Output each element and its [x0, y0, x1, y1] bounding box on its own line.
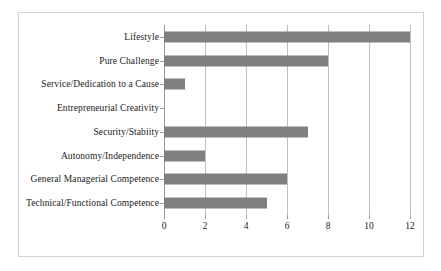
category-label: Autonomy/Independence	[61, 151, 159, 161]
plot-area: LifestylePure ChallengeService/Dedicatio…	[164, 25, 410, 215]
x-axis-label: 6	[285, 221, 290, 231]
gridline-12	[410, 25, 411, 215]
x-axis-label: 12	[405, 221, 415, 231]
bar-row: Service/Dedication to a Cause	[164, 73, 410, 97]
bar[interactable]	[164, 198, 267, 209]
bars-group: LifestylePure ChallengeService/Dedicatio…	[164, 25, 410, 215]
category-label: General Managerial Competence	[31, 174, 159, 184]
bar-row: Technical/Functional Competence	[164, 191, 410, 215]
category-label: Technical/Functional Competence	[26, 198, 159, 208]
x-axis-tick	[287, 215, 288, 219]
x-axis-tick	[410, 215, 411, 219]
bar[interactable]	[164, 55, 328, 66]
chart-container: LifestylePure ChallengeService/Dedicatio…	[18, 12, 424, 257]
bar[interactable]	[164, 126, 308, 137]
x-axis-tick	[205, 215, 206, 219]
x-axis-tick	[164, 215, 165, 219]
bar[interactable]	[164, 79, 185, 90]
x-axis-label: 8	[326, 221, 331, 231]
x-axis-label: 2	[203, 221, 208, 231]
category-label: Entrepreneurial Creativity	[57, 103, 159, 113]
category-label: Lifestyle	[124, 32, 159, 42]
category-label: Security/Stabiity	[93, 127, 159, 137]
x-axis-label: 0	[162, 221, 167, 231]
x-axis-label: 10	[364, 221, 374, 231]
bar-row: Entrepreneurial Creativity	[164, 96, 410, 120]
x-axis-tick	[246, 215, 247, 219]
category-label: Pure Challenge	[99, 56, 159, 66]
category-label: Service/Dedication to a Cause	[41, 79, 159, 89]
x-axis-tick	[328, 215, 329, 219]
bar[interactable]	[164, 150, 205, 161]
category-tick	[160, 108, 164, 109]
x-axis-tick	[369, 215, 370, 219]
bar[interactable]	[164, 31, 410, 42]
bar-row: Autonomy/Independence	[164, 144, 410, 168]
bar-row: Security/Stabiity	[164, 120, 410, 144]
bar[interactable]	[164, 174, 287, 185]
bar-row: General Managerial Competence	[164, 168, 410, 192]
bar-row: Lifestyle	[164, 25, 410, 49]
bar-row: Pure Challenge	[164, 49, 410, 73]
x-axis-label: 4	[244, 221, 249, 231]
